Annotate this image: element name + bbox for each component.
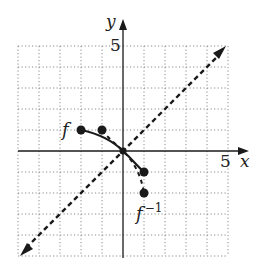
y-tick-5: 5 (110, 35, 121, 55)
y-axis-label: y (105, 11, 116, 31)
y-axis-arrow-icon (119, 19, 127, 30)
finv-label: f−1 (134, 201, 162, 224)
finv-label-sup: −1 (145, 201, 163, 215)
x-tick-5: 5 (220, 151, 231, 171)
identity-arrow-down-icon (20, 243, 33, 256)
graph: y 5 5 x f f−1 (0, 0, 267, 272)
f-label: f (60, 119, 72, 140)
x-axis-label: x (240, 151, 250, 171)
origin-point (120, 148, 127, 155)
finv-endpoint-end (140, 189, 149, 198)
f-endpoint-end (140, 168, 149, 177)
identity-arrow-up-icon (213, 46, 226, 59)
finv-endpoint-start (98, 126, 107, 135)
f-endpoint-start (77, 126, 86, 135)
